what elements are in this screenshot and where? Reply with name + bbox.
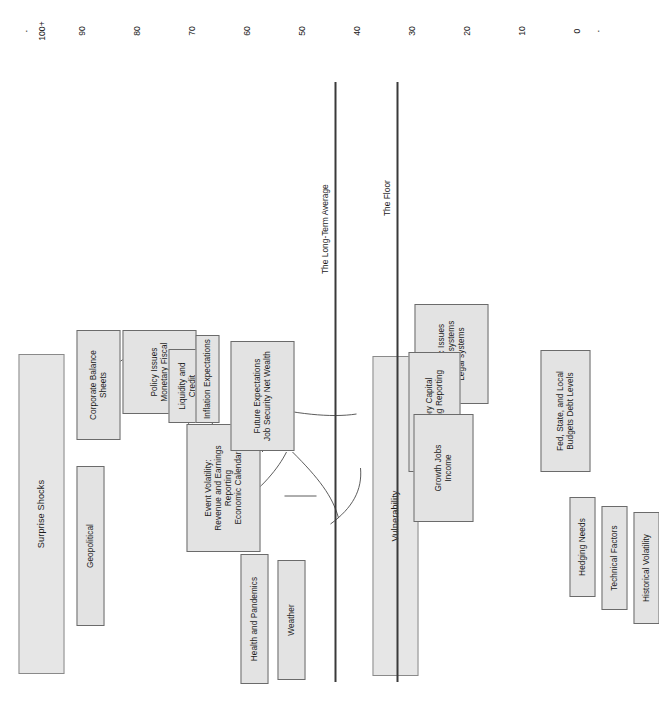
node-technical-factors[interactable]: Technical Factors	[601, 506, 627, 610]
axis-tick-90: 90	[76, 18, 86, 44]
rule-floor	[396, 82, 398, 682]
node-growth-jobs[interactable]: Growth Jobs Income	[413, 414, 473, 522]
axis-tick-80: 80	[131, 18, 141, 44]
axis-tick-50: 50	[296, 18, 306, 44]
rule-long-term-average	[334, 82, 336, 682]
axis-tick-70: 70	[186, 18, 196, 44]
axis-tick-40: 40	[351, 18, 361, 44]
node-hedging-needs[interactable]: Hedging Needs	[569, 497, 595, 597]
node-fed-state-local[interactable]: Fed, State, and Local Budgets Debt Level…	[540, 350, 590, 472]
axis-tick-10: 10	[516, 18, 526, 44]
node-corporate-balance-sheets[interactable]: Corporate Balance Sheets	[76, 330, 120, 440]
band-surprise-shocks: Surprise Shocks	[18, 354, 64, 674]
axis-tick-60: 60	[241, 18, 251, 44]
axis-dot-bottom: ·	[592, 29, 603, 33]
rule-label-floor: The Floor	[381, 180, 391, 216]
node-future-expectations[interactable]: Future Expectations Job Security Net Wea…	[230, 341, 294, 451]
node-inflation-expectations[interactable]: Inflation Expectations	[195, 335, 219, 423]
node-historical-volatility[interactable]: Historical Volatility	[633, 512, 659, 624]
rule-label-long-term-average: The Long-Term Average	[319, 184, 329, 274]
axis-tick-0: 0	[571, 18, 581, 44]
axis-dot-top: ·	[20, 29, 31, 33]
axis-tick-20: 20	[461, 18, 471, 44]
axis-tick-30: 30	[406, 18, 416, 44]
node-geopolitical[interactable]: Geopolitical	[76, 466, 104, 626]
node-health-pandemics[interactable]: Health and Pandemics	[240, 554, 268, 684]
axis-tick-100plus: 100+	[36, 18, 46, 44]
node-weather[interactable]: Weather	[277, 560, 305, 680]
